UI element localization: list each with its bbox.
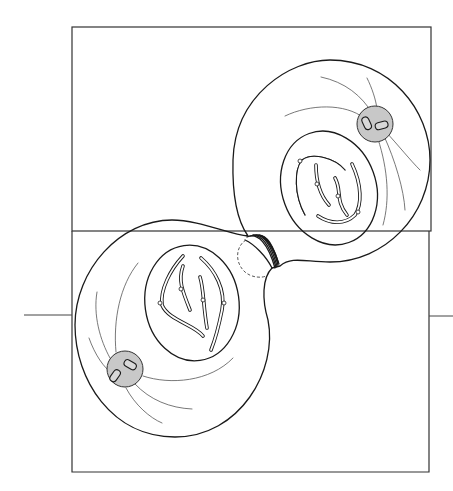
upper-right-centrosome [357, 106, 393, 142]
lower-left-spindle-fibers [89, 263, 233, 423]
cell-division-diagram [0, 0, 453, 491]
contractile-ring [238, 235, 279, 277]
lower-left-nucleus [137, 239, 246, 367]
lower-left-centrosome [107, 351, 143, 387]
